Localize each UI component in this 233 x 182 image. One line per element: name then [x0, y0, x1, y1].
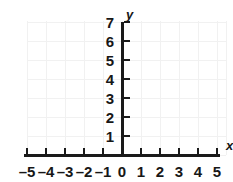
y-axis-tick-label: 2: [100, 110, 114, 125]
coordinate-plane: –5–4–3–2–10123451234567 x y: [0, 0, 233, 182]
grid-line-vertical: [226, 21, 227, 155]
x-axis-label: x: [226, 139, 233, 152]
y-axis-tick: [124, 135, 130, 137]
x-axis-tick: [83, 148, 85, 154]
y-axis-tick-label: 7: [100, 15, 114, 30]
y-axis-tick-label: 5: [100, 53, 114, 68]
x-axis-tick: [45, 148, 47, 154]
y-axis-tick-label: 1: [100, 129, 114, 144]
y-axis-tick-label: 3: [100, 91, 114, 106]
x-axis-tick-label: 5: [206, 164, 228, 179]
x-axis-tick: [26, 148, 28, 154]
y-axis-tick: [124, 116, 130, 118]
y-axis-tick-label: 6: [100, 34, 114, 49]
y-axis-tick: [124, 59, 130, 61]
y-axis-tick: [124, 40, 130, 42]
y-axis-label: y: [126, 8, 133, 21]
x-axis-tick: [140, 148, 142, 154]
x-axis-tick: [178, 148, 180, 154]
x-axis-tick: [159, 148, 161, 154]
x-axis-tick: [64, 148, 66, 154]
x-axis-tick: [216, 148, 218, 154]
x-axis-tick: [102, 148, 104, 154]
y-axis-tick-label: 4: [100, 72, 114, 87]
x-axis-tick: [197, 148, 199, 154]
y-axis-tick: [124, 97, 130, 99]
y-axis-tick: [124, 78, 130, 80]
